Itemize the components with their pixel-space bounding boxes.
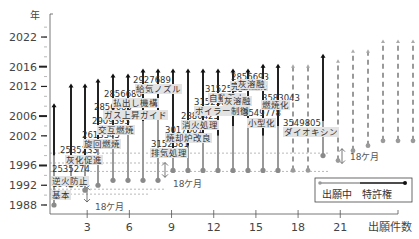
patent-number: 2535274 bbox=[52, 164, 90, 174]
y-tick-label: 1996 bbox=[9, 159, 37, 172]
y-tick-label: 2002 bbox=[9, 130, 37, 143]
legend: 出願中特許権 bbox=[315, 178, 412, 202]
legend-pending-label: 出願中 bbox=[322, 188, 352, 200]
patent-label: 焼却炉改良 bbox=[166, 133, 211, 143]
patent-label: 排気処理 bbox=[151, 148, 187, 158]
patent-label: 交互燃焼 bbox=[98, 125, 134, 135]
x-tick-label: 3 bbox=[84, 221, 91, 234]
annotation-18-months: 18ケ月 bbox=[173, 179, 202, 189]
y-tick-label: 1988 bbox=[9, 199, 37, 212]
patent-label: 灰溶融 bbox=[238, 79, 265, 89]
patent-label: 旋回燃焼 bbox=[84, 139, 120, 149]
stem bbox=[351, 49, 356, 153]
y-tick-label: 1992 bbox=[9, 179, 37, 192]
patent-label: 灰化促進 bbox=[66, 155, 102, 165]
stem bbox=[275, 64, 280, 173]
legend-granted-label: 特許権 bbox=[362, 188, 392, 200]
y-tick-label: 2022 bbox=[9, 31, 37, 44]
stem bbox=[411, 39, 416, 143]
x-tick-label: 12 bbox=[207, 221, 221, 234]
x-tick-label: 9 bbox=[168, 221, 175, 234]
chart-canvas: 年198819921996200220062012201620223691215… bbox=[0, 0, 419, 239]
patent-label: 給気ノズル bbox=[136, 84, 181, 94]
patent-label: 灰溶融 bbox=[224, 96, 251, 106]
patent-label: 小型化 bbox=[248, 118, 275, 128]
y-tick-label: 2016 bbox=[9, 61, 37, 74]
y-axis-label: 年 bbox=[30, 9, 40, 21]
stem bbox=[396, 39, 401, 143]
stem bbox=[320, 54, 325, 158]
annotation-18-months: 18ケ月 bbox=[350, 152, 379, 162]
x-tick-label: 18 bbox=[291, 221, 305, 234]
patent-label: 消火処理 bbox=[182, 120, 218, 130]
patent-label: 払出し機構 bbox=[113, 98, 158, 108]
patent-label: ガス上昇ガイド bbox=[104, 110, 167, 120]
x-tick-label: 15 bbox=[249, 221, 263, 234]
x-axis-label: 出願件数 bbox=[368, 220, 412, 234]
stem bbox=[366, 49, 371, 148]
patent-label: ダイオキシン bbox=[284, 127, 338, 137]
patent-label: ボイラー制御 bbox=[195, 106, 249, 116]
patent-timeline-chart: 年198819921996200220062012201620223691215… bbox=[0, 0, 419, 239]
x-tick-label: 6 bbox=[126, 221, 133, 234]
annotation-18-months: 18ケ月 bbox=[95, 202, 124, 212]
y-tick-label: 2006 bbox=[9, 110, 37, 123]
stem bbox=[336, 59, 341, 163]
x-tick-label: 21 bbox=[333, 221, 347, 234]
y-tick-label: 2012 bbox=[9, 80, 37, 93]
stem bbox=[381, 39, 386, 143]
patent-label: 基本 bbox=[52, 190, 70, 200]
patent-label: 逆火防止 bbox=[52, 176, 88, 186]
patent-label: 燃焼化 bbox=[262, 100, 289, 110]
